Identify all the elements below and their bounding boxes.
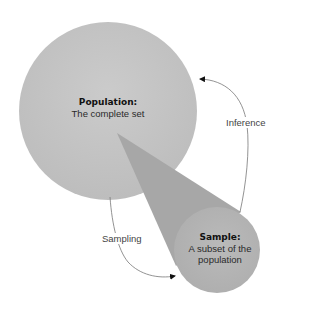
sample-title: Sample:: [178, 232, 262, 243]
population-subtitle: The complete set: [58, 108, 158, 119]
sample-label: Sample: A subset of the population: [178, 232, 262, 265]
population-title: Population:: [58, 97, 158, 108]
sample-subtitle-line1: A subset of the: [178, 243, 262, 254]
sampling-label: Sampling: [101, 233, 143, 244]
inference-label: Inference: [225, 117, 267, 128]
sample-subtitle-line2: population: [178, 254, 262, 265]
population-label: Population: The complete set: [58, 97, 158, 119]
